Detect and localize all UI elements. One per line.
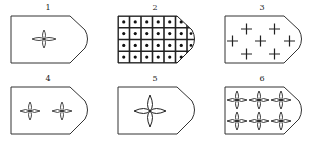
four-point-star-icon [20, 102, 40, 120]
four-point-star-icon [52, 102, 72, 120]
four-point-star-icons [227, 91, 291, 130]
panel-label: 2 [117, 3, 193, 13]
panel-3: 3 [224, 3, 314, 63]
panel-6: 6 [224, 74, 314, 134]
shield-shape [224, 13, 314, 65]
panel-5: 5 [117, 74, 207, 134]
four-point-star-icon [32, 30, 56, 48]
panel-label: 4 [10, 74, 86, 84]
shield-shape [10, 84, 100, 136]
shield-shape [117, 13, 207, 65]
panel-2: 2 [117, 3, 207, 63]
dotted-grid-pattern [117, 13, 207, 65]
shield-shape [10, 13, 100, 65]
shield-shape [117, 84, 207, 136]
panel-label: 3 [224, 3, 300, 13]
plus-sign-icons [227, 24, 295, 60]
four-point-star-icon [134, 95, 166, 127]
shield-shape [224, 84, 314, 136]
panel-label: 6 [224, 74, 300, 84]
panel-1: 1 [10, 3, 100, 63]
panel-label: 1 [10, 3, 86, 13]
panel-4: 4 [10, 74, 100, 134]
panel-label: 5 [117, 74, 193, 84]
